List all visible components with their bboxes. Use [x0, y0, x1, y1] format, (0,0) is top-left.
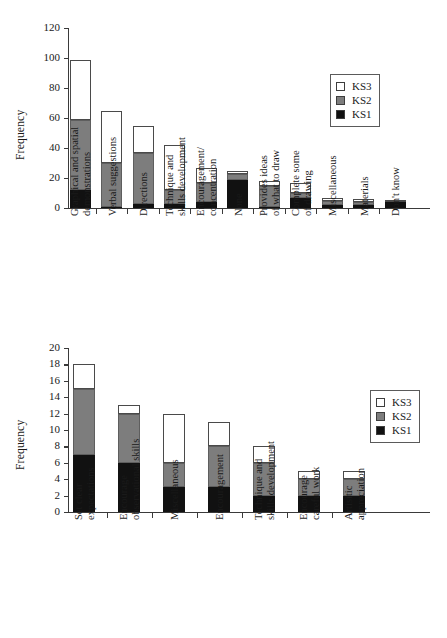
- x-axis-label-line1: Complete some: [290, 150, 301, 216]
- y-tick-label: 60: [30, 112, 60, 123]
- x-axis-line: [68, 208, 430, 209]
- bar-segment-ks3: [118, 405, 140, 413]
- y-tick: [64, 479, 69, 480]
- x-axis-label: Encouragement/concentration: [195, 147, 218, 216]
- x-axis-label-line2: expectations: [85, 468, 97, 520]
- x-axis-label-line1: None: [233, 193, 244, 216]
- x-axis-label-line1: Technique and: [253, 459, 264, 520]
- y-tick: [64, 381, 69, 382]
- x-axis-label: Verbal suggestions: [107, 137, 119, 216]
- x-tick: [332, 513, 333, 518]
- x-axis-label-line1: Miscellaneous: [327, 155, 338, 216]
- x-tick: [348, 209, 349, 214]
- x-tick: [285, 209, 286, 214]
- x-tick: [253, 209, 254, 214]
- legend-swatch-ks1: [376, 426, 385, 435]
- bar-segment-ks3: [73, 364, 95, 389]
- x-axis-label: Miscellaneous: [327, 155, 339, 216]
- x-axis-label-line1: Miscellaneous: [169, 459, 180, 520]
- y-tick: [64, 446, 69, 447]
- y-axis-line: [68, 348, 69, 513]
- x-tick: [379, 209, 380, 214]
- y-tick-label: 0: [30, 506, 60, 517]
- legend-label: KS2: [392, 411, 412, 422]
- x-tick: [107, 513, 108, 518]
- x-axis-label-line2: appreciation: [355, 468, 367, 520]
- y-tick: [64, 430, 69, 431]
- y-tick-label: 100: [30, 52, 60, 63]
- x-axis-label: Technique andskills development: [253, 441, 276, 520]
- x-axis-label: Encourageobservational skills: [118, 439, 141, 520]
- x-tick: [152, 513, 153, 518]
- legend-swatch-ks1: [336, 110, 345, 119]
- x-tick: [96, 209, 97, 214]
- y-tick-label: 16: [30, 375, 60, 386]
- y-tick-label: 40: [30, 142, 60, 153]
- x-tick: [127, 209, 128, 214]
- bar-segment-ks2: [227, 174, 248, 180]
- x-axis-label-line2: skills development: [265, 441, 277, 520]
- legend-label: KS3: [392, 397, 412, 408]
- x-axis-label-line2: skills development: [175, 137, 187, 216]
- chart-lower-stacked-bar: 02468101214161820FrequencySet clearexpec…: [0, 320, 447, 638]
- x-axis-label: Miscellaneous: [169, 459, 181, 520]
- x-axis-label: Graphical and spatialdemonstrations: [69, 127, 92, 216]
- y-tick-label: 120: [30, 22, 60, 33]
- legend: KS3KS2KS1: [330, 74, 380, 127]
- x-axis-label: Materials: [359, 176, 371, 216]
- x-axis-label-line1: Materials: [359, 176, 370, 216]
- x-axis-label: Complete someof drawing: [290, 150, 313, 216]
- x-tick: [190, 209, 191, 214]
- y-tick-label: 6: [30, 457, 60, 468]
- x-axis-label: Provides ideasof what to draw: [258, 150, 281, 216]
- y-tick-label: 14: [30, 391, 60, 402]
- y-tick: [64, 496, 69, 497]
- y-tick: [64, 88, 69, 89]
- x-tick: [197, 513, 198, 518]
- y-tick: [64, 178, 69, 179]
- bar-segment-ks3: [70, 60, 91, 120]
- y-tick-label: 8: [30, 440, 60, 451]
- bar-segment-ks3: [133, 126, 154, 153]
- x-tick: [222, 209, 223, 214]
- x-axis-label-line2: demonstrations: [81, 127, 93, 216]
- x-axis-label-line1: Verbal suggestions: [107, 137, 118, 216]
- y-axis-title: Frequency: [14, 420, 26, 470]
- x-axis-label: Directions: [138, 172, 150, 216]
- x-axis-label-line1: Directions: [138, 172, 149, 216]
- y-axis-title: Frequency: [14, 110, 26, 160]
- x-tick: [287, 513, 288, 518]
- legend-swatch-ks2: [376, 412, 385, 421]
- x-axis-label-line1: Encouragement: [214, 454, 225, 520]
- x-axis-label: None: [233, 193, 245, 216]
- legend-swatch-ks3: [336, 82, 345, 91]
- x-axis-label-line2: observational skills: [130, 439, 142, 520]
- x-axis-label-line1: Encourage: [118, 475, 129, 520]
- x-axis-label-line2: concentration: [207, 147, 219, 216]
- x-axis-label-line1: Encouragement/: [195, 147, 206, 216]
- chart-upper-stacked-bar: 020406080100120FrequencyGraphical and sp…: [0, 0, 447, 320]
- x-axis-label: Set clearexpectations: [73, 468, 96, 520]
- y-tick-label: 20: [30, 342, 60, 353]
- legend-item: KS2: [376, 410, 412, 423]
- legend-item: KS2: [336, 94, 372, 107]
- bar-segment-ks2: [73, 389, 95, 455]
- y-tick-label: 10: [30, 424, 60, 435]
- legend-label: KS1: [392, 425, 412, 436]
- legend-swatch-ks2: [336, 96, 345, 105]
- x-axis-label: Artisiticappreciation: [343, 468, 366, 520]
- y-tick: [64, 414, 69, 415]
- x-axis-label: Technique andskills development: [164, 137, 187, 216]
- bar-segment-ks3: [208, 422, 230, 447]
- bar-segment-ks3: [227, 171, 248, 174]
- y-tick: [64, 463, 69, 464]
- y-tick: [64, 28, 69, 29]
- y-tick-label: 20: [30, 172, 60, 183]
- x-tick: [316, 209, 317, 214]
- legend-item: KS3: [336, 80, 372, 93]
- x-axis-label: Encouragecareful work: [298, 467, 321, 520]
- x-axis-label-line2: careful work: [310, 467, 322, 520]
- x-axis-label: Don't know: [390, 167, 402, 216]
- bar-segment-ks3: [163, 414, 185, 463]
- legend-label: KS3: [352, 81, 372, 92]
